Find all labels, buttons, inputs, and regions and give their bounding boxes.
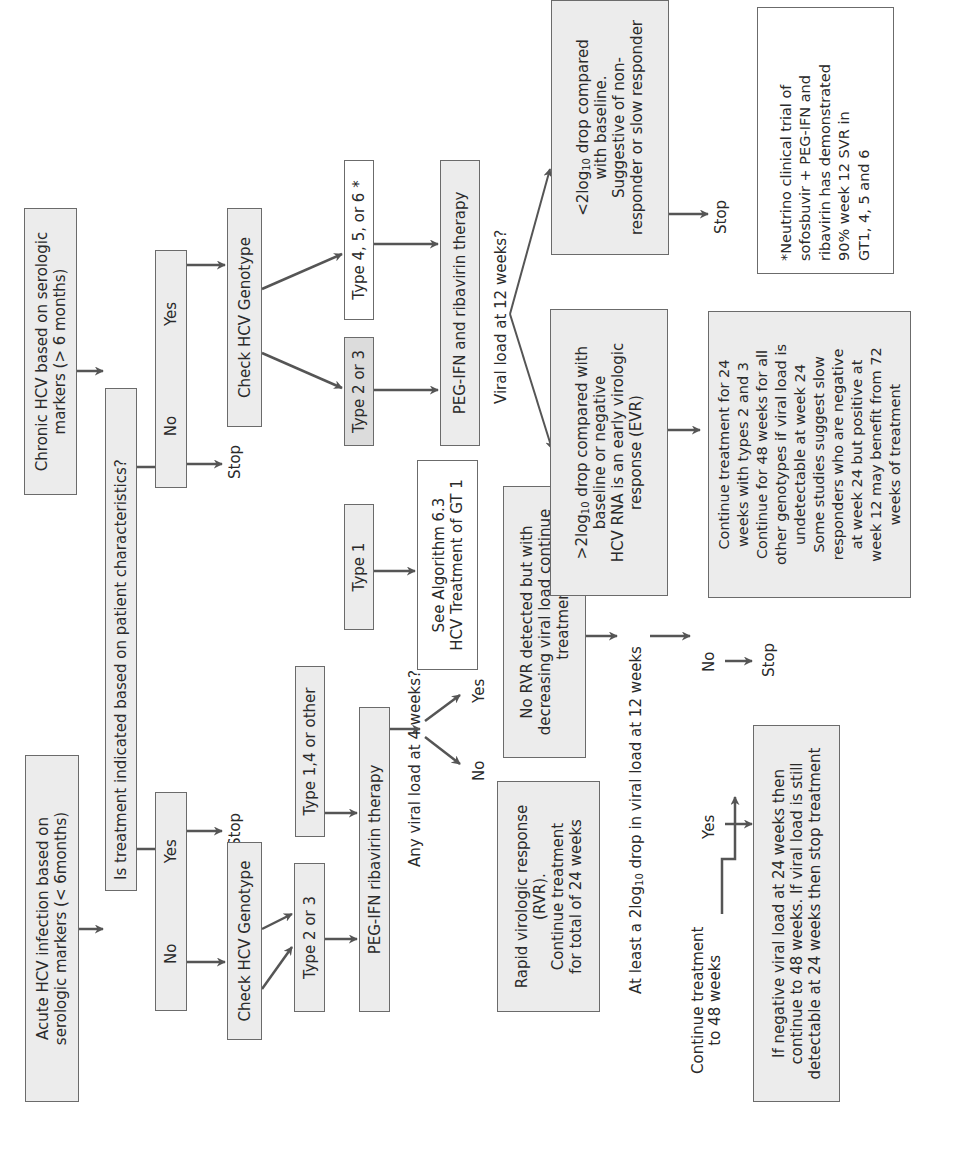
continue-line: weeks of treatment	[886, 384, 905, 526]
chronic-check-genotype-box: Check HCV Genotype	[227, 208, 262, 427]
chronic-type-4-5-6-box: Type 4, 5, or 6 *	[344, 160, 374, 320]
chronic-type-2-3-box: Type 2 or 3	[344, 337, 374, 446]
continue-48-label: Continue treatment to 48 weeks	[690, 927, 724, 1074]
acute-type-1-4-other-text: Type 1,4 or other	[301, 688, 319, 816]
slow-responder-box: <2log10 drop compared with baseline. Sug…	[551, 0, 669, 255]
chronic-start-line2: markers (> 6 months)	[51, 269, 69, 435]
chronic-type-4-5-6-text: Type 4, 5, or 6 *	[350, 180, 368, 299]
footnote-line: *Neutrino clinical trial of	[777, 85, 797, 261]
chronic-type-1-box: Type 1	[344, 504, 374, 630]
continue-line: week 12 may benefit from 72	[867, 347, 886, 561]
evr-line2: baseline or negative	[591, 376, 609, 529]
continue-line: weeks with types 2 and 3	[734, 362, 753, 547]
continue-treatment-box: Continue treatment for 24 weeks with typ…	[708, 311, 911, 598]
chronic-hcv-start-box: Chronic HCV based on serologic markers (…	[24, 208, 77, 495]
acute-yes-no-box: No Yes	[155, 792, 187, 1011]
continue-line: Continue for 48 weeks for all	[753, 350, 772, 559]
viral-load-12wk-question: Viral load at 12 weeks?	[492, 230, 510, 404]
hcv-treatment-flowchart: Acute HCV infection based on serologic m…	[0, 0, 973, 1169]
continue-line: at week 24 but positive at	[848, 360, 867, 550]
chronic-stop-label: Stop	[226, 445, 244, 479]
acute-check-genotype-text: Check HCV Genotype	[236, 861, 254, 1022]
chronic-type-1-text: Type 1	[350, 543, 368, 592]
chronic-therapy-text: PEG-IFN and ribavirin therapy	[451, 192, 469, 415]
evr-line1: >2log10 drop compared with	[573, 346, 591, 559]
q12-yes-label: Yes	[700, 815, 718, 839]
q4-no-label: No	[470, 761, 488, 781]
chronic-yes-no-box: No Yes	[155, 250, 187, 488]
rvr-line2: (RVR).	[531, 873, 549, 920]
final-line1: If negative viral load at 24 weeks then	[770, 769, 788, 1058]
final-line3: detectable at 24 weeks then stop treatme…	[806, 748, 824, 1080]
rvr-box: Rapid virologic response (RVR). Continue…	[497, 781, 600, 1012]
final-line2: continue to 48 weeks. If viral load is s…	[788, 762, 806, 1064]
acute-no-label: No	[162, 944, 180, 964]
chronic-start-line1: Chronic HCV based on serologic	[33, 232, 51, 471]
acute-type-1-4-other-box: Type 1,4 or other	[295, 666, 325, 837]
footnote-line: GT1, 4, 5 and 6	[855, 150, 875, 261]
rvr-line4: for total of 24 weeks	[567, 819, 585, 974]
acute-therapy-text: PEG-IFN ribavirin therapy	[366, 765, 384, 955]
treatment-question-text: Is treatment indicated based on patient …	[112, 459, 130, 880]
slow-line2: with baseline.	[592, 75, 610, 179]
q12-stop-label: Stop	[760, 643, 778, 677]
evr-line3: HCV RNA is an early virologic	[609, 343, 627, 562]
continue-line: other genotypes if viral load is	[772, 344, 791, 565]
acute-yes-label: Yes	[162, 839, 180, 863]
evr-box: >2log10 drop compared with baseline or n…	[550, 309, 668, 596]
neutrino-footnote-box: *Neutrino clinical trial of sofosbuvir +…	[757, 7, 894, 274]
acute-start-line1: Acute HCV infection based on	[34, 817, 52, 1040]
q12-prefix: At least a 2log	[627, 886, 645, 994]
continue-line: Some studies suggest slow	[810, 356, 829, 553]
slow-line4: responder or slow responder	[628, 20, 646, 235]
chronic-type-2-3-text: Type 2 or 3	[350, 350, 368, 433]
acute-peg-ifn-therapy-box: PEG-IFN ribavirin therapy	[359, 707, 390, 1012]
rvr-line3: Continue treatment	[549, 823, 567, 970]
evr-line4: response (EVR)	[627, 395, 645, 510]
continue-line: undetectable at week 24	[791, 364, 810, 545]
see-algorithm-box: See Algorithm 6.3 HCV Treatment of GT 1	[417, 460, 478, 670]
acute-type-2-3-text: Type 2 or 3	[301, 896, 319, 979]
see-alg-line1: See Algorithm 6.3	[430, 498, 448, 633]
acute-start-line2: serologic markers (< 6months)	[52, 812, 70, 1045]
continue48-line1: Continue treatment	[690, 927, 707, 1074]
treatment-indicated-question-box: Is treatment indicated based on patient …	[105, 388, 137, 891]
slow-line1: <2log10 drop compared	[574, 39, 592, 216]
q4-yes-label: Yes	[470, 679, 488, 703]
continue-line: responders who are negative	[829, 349, 848, 561]
viral-load-4wk-question: Any viral load at 4 weeks?	[406, 670, 424, 867]
footnote-line: ribavirin has demonstrated	[816, 64, 836, 261]
q12-suffix: drop in viral load at 12 weeks	[627, 646, 645, 873]
chronic-peg-ifn-therapy-box: PEG-IFN and ribavirin therapy	[440, 160, 480, 446]
q12-no-label: No	[700, 652, 718, 672]
acute-type-2-3-box: Type 2 or 3	[294, 863, 325, 1012]
continue48-line2: to 48 weeks	[707, 927, 724, 1074]
chronic-no-label: No	[162, 416, 180, 436]
no-rvr-line1: No RVR detected but with	[518, 525, 536, 718]
rvr-line1: Rapid virologic response	[513, 805, 531, 989]
slow-responder-stop-label: Stop	[712, 200, 730, 234]
q12-subscript: 10	[634, 873, 645, 886]
acute-check-genotype-box: Check HCV Genotype	[227, 842, 262, 1040]
see-alg-line2: HCV Treatment of GT 1	[448, 479, 466, 651]
footnote-line: sofosbuvir + PEG-IFN and	[796, 75, 816, 261]
log-drop-12wk-question: At least a 2log10 drop in viral load at …	[627, 646, 645, 994]
acute-hcv-start-box: Acute HCV infection based on serologic m…	[25, 755, 79, 1102]
chronic-yes-label: Yes	[162, 302, 180, 326]
continue-line: Continue treatment for 24	[715, 359, 734, 549]
final-decision-box: If negative viral load at 24 weeks then …	[753, 725, 840, 1102]
footnote-line: 90% week 12 SVR in	[835, 111, 855, 261]
slow-line3: Suggestive of non-	[610, 57, 628, 198]
chronic-check-genotype-text: Check HCV Genotype	[236, 237, 254, 398]
